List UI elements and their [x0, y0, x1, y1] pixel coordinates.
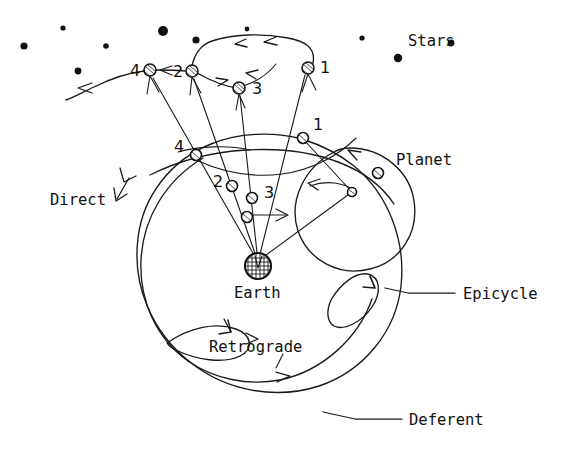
earth-globe: [245, 253, 271, 279]
deferent-number-4: 4: [174, 137, 184, 156]
sky-path-arrowhead: [264, 37, 277, 45]
star-field: [20, 25, 454, 74]
sky-marker-3: [233, 82, 245, 94]
sky-number-3: 3: [252, 79, 262, 98]
sight-line-4: [153, 78, 258, 262]
planet-track-curve: [338, 162, 394, 204]
deferent-tick: [276, 354, 283, 368]
star-dot: [245, 27, 250, 32]
sky-marker-4: [144, 64, 156, 76]
planet-marker-inner: [348, 188, 357, 197]
earth-label: Earth: [234, 284, 281, 302]
sky-path-arrowhead: [235, 39, 247, 47]
sky-number-1: 1: [320, 58, 330, 77]
star-dot: [394, 54, 402, 62]
label-leaders: [114, 178, 455, 419]
epicycle-leader: [385, 288, 455, 293]
sky-number-2: 2: [173, 62, 183, 81]
retrograde-label: Retrograde: [209, 338, 302, 356]
planet-label: Planet: [396, 151, 452, 169]
epicycle-radius-arm: [262, 140, 352, 258]
star-dot: [359, 35, 364, 40]
sight-lines: [153, 75, 305, 262]
eccentric-arc-path: [141, 158, 203, 361]
sky-path-curve: [192, 35, 313, 66]
deferent-marker-2: [227, 181, 238, 193]
star-dot: [103, 43, 109, 49]
star-dot: [20, 42, 27, 49]
text-labels: Stars Planet Earth Direct Retrograde Epi…: [50, 32, 538, 429]
star-dot: [158, 26, 168, 36]
stars-label: Stars: [408, 32, 455, 50]
star-dot: [60, 25, 65, 30]
eccentric-arc-path: [188, 361, 280, 382]
deferent-marker-3: [247, 193, 258, 205]
planet-track-curve: [178, 147, 250, 152]
sky-marker-whisker: [190, 77, 201, 95]
star-dot: [192, 36, 199, 43]
sky-marker-1: [302, 62, 314, 74]
deferent-marker-1: [298, 133, 309, 145]
planet-marker: [373, 168, 384, 180]
deferent-number-2: 2: [213, 172, 223, 191]
epicycle-label: Epicycle: [463, 285, 538, 303]
deferent-leader: [323, 412, 402, 419]
sight-line-1: [258, 75, 305, 262]
star-dot: [75, 68, 82, 75]
sky-number-4: 4: [130, 61, 140, 80]
direct-label: Direct: [50, 191, 106, 209]
deferent-number-1: 1: [313, 115, 323, 134]
deferent-marker-extra: [242, 212, 253, 224]
deferent-label: Deferent: [409, 411, 484, 429]
sky-marker-2: [186, 65, 198, 77]
sky-path-arrowhead: [246, 70, 258, 79]
deferent-marker-4: [191, 150, 202, 162]
deferent-number-3: 3: [264, 183, 274, 202]
ptolemaic-epicycle-diagram: 1 2 3 4 1 2 3 4 Stars Planet Earth Direc…: [0, 0, 574, 468]
epicycle-direction-arrowhead: [348, 150, 361, 160]
diagram-canvas: 1 2 3 4 1 2 3 4 Stars Planet Earth Direc…: [0, 0, 574, 468]
direct-leader-arrowhead: [114, 188, 127, 201]
